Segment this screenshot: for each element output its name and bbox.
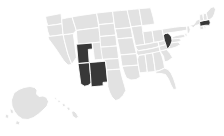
state-maine[interactable] <box>206 7 215 20</box>
state-iowa[interactable] <box>115 28 133 39</box>
state-pennsylvania[interactable] <box>162 26 187 35</box>
state-delaware[interactable] <box>185 33 188 36</box>
state-maryland[interactable] <box>172 35 185 39</box>
state-texas[interactable] <box>107 69 126 100</box>
state-arkansas[interactable] <box>120 54 138 66</box>
state-nebraska[interactable] <box>100 35 117 47</box>
state-new-york[interactable] <box>181 19 201 28</box>
state-alaska[interactable] <box>5 87 49 126</box>
state-kansas[interactable] <box>101 46 119 59</box>
state-south-dakota[interactable] <box>99 23 116 36</box>
state-oregon[interactable] <box>47 24 63 37</box>
state-michigan[interactable] <box>139 8 154 26</box>
state-new-mexico[interactable] <box>89 61 107 87</box>
state-utah[interactable] <box>77 43 93 63</box>
state-arizona[interactable] <box>78 63 91 86</box>
us-choropleth-map <box>0 0 224 136</box>
us-map-svg <box>0 0 224 136</box>
state-north-dakota[interactable] <box>97 11 114 24</box>
state-wyoming[interactable] <box>76 28 100 45</box>
state-florida[interactable] <box>155 68 176 89</box>
state-missouri[interactable] <box>117 38 136 55</box>
state-louisiana[interactable] <box>122 65 140 80</box>
state-new-jersey[interactable] <box>187 26 190 34</box>
state-hawaii[interactable] <box>55 98 79 119</box>
